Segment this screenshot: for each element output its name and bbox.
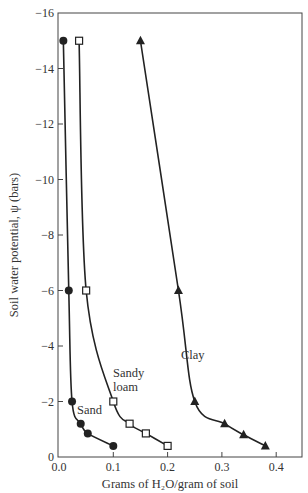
x-axis-ticks: 0.00.10.20.30.4 [52, 452, 284, 474]
series-clay [136, 36, 270, 450]
sandy-loam-point [83, 287, 90, 294]
x-tick-label: 0.1 [106, 460, 121, 474]
label-sandy-loam-line1: Sandy [113, 366, 145, 380]
sandy-loam-point [126, 420, 133, 427]
clay-point [239, 430, 248, 439]
y-axis-ticks: 0−2−4−6−8−10−12−14−16 [35, 6, 63, 464]
soil-water-potential-chart: 0−2−4−6−8−10−12−14−16 0.00.10.20.30.4 Sa… [0, 0, 308, 493]
series-layer [59, 36, 269, 450]
y-axis-title: Soil water potential, ψ (bars) [7, 173, 21, 317]
sand-point [109, 442, 117, 450]
series-labels: SandSandyloamClay [77, 348, 205, 417]
sand-point [59, 37, 67, 45]
y-tick-label: −2 [41, 395, 54, 409]
clay-point [174, 286, 183, 295]
clay-point [136, 36, 145, 45]
plot-frame [58, 13, 302, 457]
sand-point [65, 287, 73, 295]
sandy-loam-point [164, 442, 171, 449]
sand-point [84, 429, 92, 437]
y-tick-label: −10 [35, 173, 54, 187]
x-tick-label: 0.4 [269, 460, 284, 474]
y-tick-label: −8 [41, 228, 54, 242]
sand-curve [63, 41, 113, 446]
y-tick-label: −14 [35, 62, 54, 76]
x-axis-title: Grams of H₂O/gram of soil [102, 477, 239, 491]
sandy-loam-point [110, 398, 117, 405]
x-tick-label: 0.3 [214, 460, 229, 474]
clay-point [190, 397, 199, 406]
label-clay: Clay [181, 348, 205, 362]
y-tick-label: −16 [35, 6, 54, 20]
sandy-loam-point [76, 37, 83, 44]
clay-curve [140, 41, 265, 446]
sand-point [77, 420, 85, 428]
y-tick-label: −4 [41, 339, 54, 353]
y-tick-label: −6 [41, 284, 54, 298]
sandy-loam-point [142, 430, 149, 437]
y-tick-label: −12 [35, 117, 54, 131]
label-sandy-loam-line2: loam [113, 380, 138, 394]
x-tick-label: 0.0 [52, 460, 67, 474]
sand-point [68, 398, 76, 406]
x-tick-label: 0.2 [160, 460, 175, 474]
label-sand: Sand [77, 403, 103, 417]
